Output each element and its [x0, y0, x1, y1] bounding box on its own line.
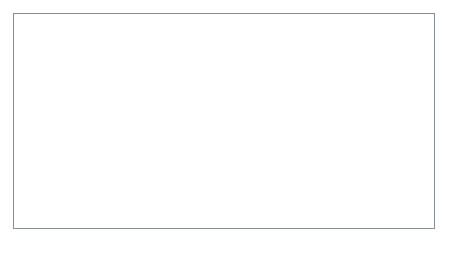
figure-border-frame — [13, 13, 435, 229]
figure-root: A chain of circles whose centers follow … — [0, 0, 450, 256]
